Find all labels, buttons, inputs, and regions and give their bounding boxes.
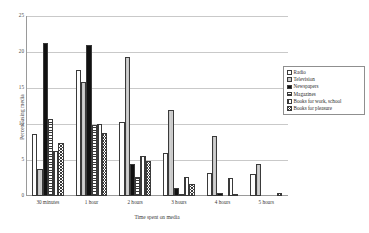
legend-item[interactable]: Books for work, school [287, 99, 361, 104]
bar-group [70, 16, 114, 196]
y-axis-tick-label: 5 [21, 157, 24, 162]
legend-item[interactable]: Magazines [287, 92, 361, 97]
bar-groups [26, 16, 288, 196]
legend-swatch-icon [287, 70, 292, 75]
bar-group [113, 16, 157, 196]
x-axis-tick-label: 2 hours [113, 199, 157, 205]
bar-group [201, 16, 245, 196]
bar [217, 193, 222, 196]
bar-group-bars [119, 16, 151, 196]
legend-swatch-icon [287, 92, 292, 97]
legend-item[interactable]: Newspapers [287, 84, 361, 89]
bar [233, 194, 238, 196]
y-axis-tick-label: 10 [19, 121, 24, 126]
bar [146, 161, 151, 196]
legend-item[interactable]: Television [287, 77, 361, 82]
bar [212, 136, 217, 196]
y-axis-tick-label: 20 [19, 49, 24, 54]
x-axis-tick-labels: 30 minutes1 hour2 hours3 hours4 hours5 h… [26, 199, 288, 205]
bar [277, 193, 282, 196]
legend-label: Books for pleasure [294, 106, 332, 111]
x-axis-tick-label: 30 minutes [26, 199, 70, 205]
y-axis-tick-label: 0 [21, 193, 24, 198]
legend-swatch-icon [287, 77, 292, 82]
y-axis-title: Percent using media [19, 94, 25, 140]
bar [189, 184, 194, 196]
bar-group [26, 16, 70, 196]
legend-swatch-icon [287, 106, 292, 111]
x-axis-title: Time spent on media [26, 214, 288, 220]
y-axis-tick-label: 15 [19, 85, 24, 90]
legend-swatch-icon [287, 99, 292, 104]
legend-label: Books for work, school [294, 99, 342, 104]
legend-label: Newspapers [294, 84, 319, 89]
bar-group-bars [250, 16, 282, 196]
x-axis-tick-label: 4 hours [201, 199, 245, 205]
bar [168, 110, 173, 196]
legend-label: Radio [294, 70, 306, 75]
y-axis-tick-label: 25 [19, 13, 24, 18]
bar-group-bars [163, 16, 195, 196]
x-axis-tick-label: 3 hours [157, 199, 201, 205]
bar-group [157, 16, 201, 196]
bar-group-bars [207, 16, 239, 196]
bar [102, 133, 107, 196]
x-axis-tick-label: 5 hours [244, 199, 288, 205]
legend-item[interactable]: Books for pleasure [287, 106, 361, 111]
legend-swatch-icon [287, 85, 292, 90]
bar-group [244, 16, 288, 196]
x-axis-tick-label: 1 hour [70, 199, 114, 205]
legend: RadioTelevisionNewspapersMagazinesBooks … [283, 66, 365, 115]
legend-label: Television [294, 77, 315, 82]
legend-label: Magazines [294, 92, 316, 97]
bar-group-bars [32, 16, 64, 196]
bar [256, 164, 261, 196]
bar-chart: Percent using media 0510152025 30 minute… [0, 0, 369, 233]
legend-item[interactable]: Radio [287, 70, 361, 75]
bar-group-bars [76, 16, 108, 196]
bar [58, 143, 63, 196]
